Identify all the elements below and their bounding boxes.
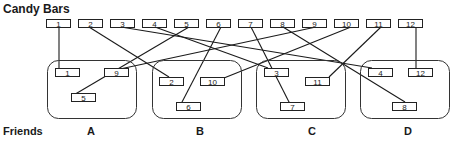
candy-bar-10: 10 [335, 20, 359, 29]
group-c-bar-11: 11 [306, 78, 330, 87]
candy-bar-5: 5 [175, 20, 199, 29]
candy-bar-2: 2 [79, 20, 103, 29]
box-label: 10 [208, 78, 217, 87]
candy-bar-row: 123456789101112 [47, 20, 423, 29]
group-b-bar-10: 10 [201, 78, 225, 87]
group-c-bar-3: 3 [265, 69, 289, 78]
group-label-b: B [196, 125, 204, 137]
box-label: 2 [169, 78, 174, 87]
group-label-d: D [404, 125, 412, 137]
candy-bar-6: 6 [207, 20, 231, 29]
group-d-bar-4: 4 [369, 69, 393, 78]
group-a-bar-9: 9 [105, 69, 129, 78]
box-label: 9 [114, 69, 119, 78]
candy-bar-8: 8 [271, 20, 295, 29]
box-label: 5 [81, 94, 86, 103]
group-d-bar-8: 8 [393, 103, 417, 112]
box-label: 8 [402, 103, 407, 112]
box-label: 4 [152, 20, 157, 29]
friend-group-a: 195 [48, 61, 137, 119]
box-label: 3 [274, 69, 279, 78]
candy-bar-11: 11 [367, 20, 391, 29]
candy-bar-12: 12 [399, 20, 423, 29]
candy-bar-7: 7 [239, 20, 263, 29]
box-label: 5 [184, 20, 189, 29]
box-label: 8 [280, 20, 285, 29]
group-label-a: A [87, 125, 95, 137]
group-b-bar-2: 2 [160, 78, 184, 87]
friend-group-c: 3117 [257, 61, 346, 119]
group-a-bar-5: 5 [72, 94, 96, 103]
box-label: 11 [313, 78, 322, 87]
diagram-title: Candy Bars [3, 2, 70, 16]
link-8-to-D-8 [283, 27, 405, 102]
group-b-bar-6: 6 [177, 103, 201, 112]
group-c-bar-7: 7 [281, 103, 305, 112]
box-label: 7 [248, 20, 253, 29]
friends-label: Friends [3, 125, 43, 137]
box-label: 2 [88, 20, 93, 29]
box-label: 9 [312, 20, 317, 29]
box-label: 7 [290, 103, 295, 112]
group-labels: ABCD [87, 125, 412, 137]
group-d-bar-12: 12 [409, 69, 433, 78]
box-label: 6 [186, 103, 191, 112]
candy-bar-9: 9 [303, 20, 327, 29]
box-label: 12 [416, 69, 425, 78]
friend-groups: 195210631174128 [48, 61, 450, 119]
candy-bar-friends-diagram: Candy Bars 195210631174128 1234567891011… [0, 0, 452, 141]
candy-bar-3: 3 [111, 20, 135, 29]
box-label: 3 [120, 20, 125, 29]
link-9-to-A-9 [106, 27, 316, 72]
box-label: 10 [342, 20, 351, 29]
friend-group-b: 2106 [153, 61, 242, 119]
box-label: 1 [56, 20, 61, 29]
group-a-bar-1: 1 [56, 69, 80, 78]
group-label-c: C [308, 125, 316, 137]
candy-bar-4: 4 [143, 20, 167, 29]
candy-bar-1: 1 [47, 20, 71, 29]
box-label: 6 [216, 20, 221, 29]
box-label: 11 [374, 20, 383, 29]
box-label: 12 [406, 20, 415, 29]
box-label: 1 [65, 69, 70, 78]
link-4-to-C-3 [155, 27, 268, 68]
friend-group-d: 4128 [361, 61, 450, 119]
box-label: 4 [378, 69, 383, 78]
